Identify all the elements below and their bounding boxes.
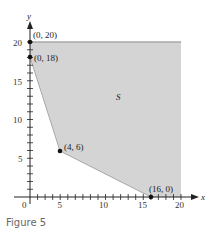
point-label-0-18: (0, 18): [34, 53, 58, 63]
y-axis-label: y: [26, 11, 31, 21]
x-tick-5: 5: [58, 200, 63, 210]
point-label-0-20: (0, 20): [33, 30, 57, 40]
y-tick-10: 10: [13, 115, 23, 125]
figure-caption: Figure 5: [6, 217, 46, 228]
point-0-18: [28, 55, 33, 60]
x-axis-arrow-icon: [191, 194, 199, 200]
feasible-region-chart: 0 5 10 15 20 5 10 15 20 x y S (0, 20) (0…: [0, 0, 219, 238]
x-axis-label: x: [200, 192, 205, 202]
y-tick-20: 20: [13, 38, 23, 48]
point-label-16-0: (16, 0): [149, 184, 173, 194]
point-label-4-6: (4, 6): [64, 142, 84, 152]
point-4-6: [58, 149, 63, 154]
x-tick-15: 15: [138, 200, 148, 210]
y-tick-15: 15: [13, 77, 23, 87]
y-axis-arrow-icon: [27, 21, 33, 29]
y-tick-5: 5: [18, 154, 23, 164]
x-tick-20: 20: [175, 200, 185, 210]
origin-label: 0: [22, 200, 27, 210]
point-16-0: [149, 195, 154, 200]
point-0-20: [28, 40, 33, 45]
x-tick-10: 10: [99, 200, 109, 210]
region-label: S: [116, 92, 121, 102]
